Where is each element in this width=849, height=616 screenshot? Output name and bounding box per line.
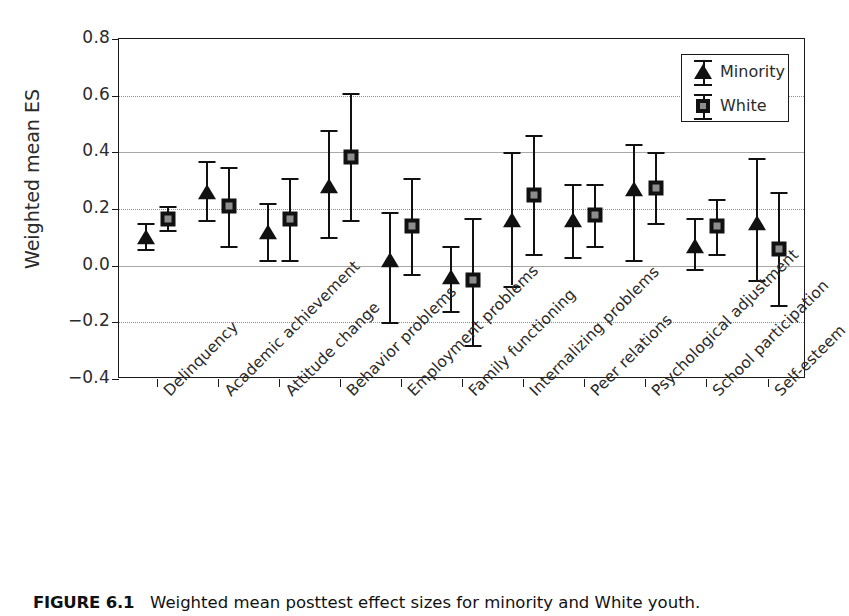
x-axis-category-label: Family functioning [465,285,579,399]
caption-label: FIGURE 6.1 [33,593,134,612]
figure-caption: FIGURE 6.1 Weighted mean posttest effect… [33,592,803,614]
caption-text: Weighted mean posttest effect sizes for … [150,593,700,612]
x-axis-category-label: Behavior problems [343,283,460,400]
x-axis-category-label: School participation [709,276,832,399]
